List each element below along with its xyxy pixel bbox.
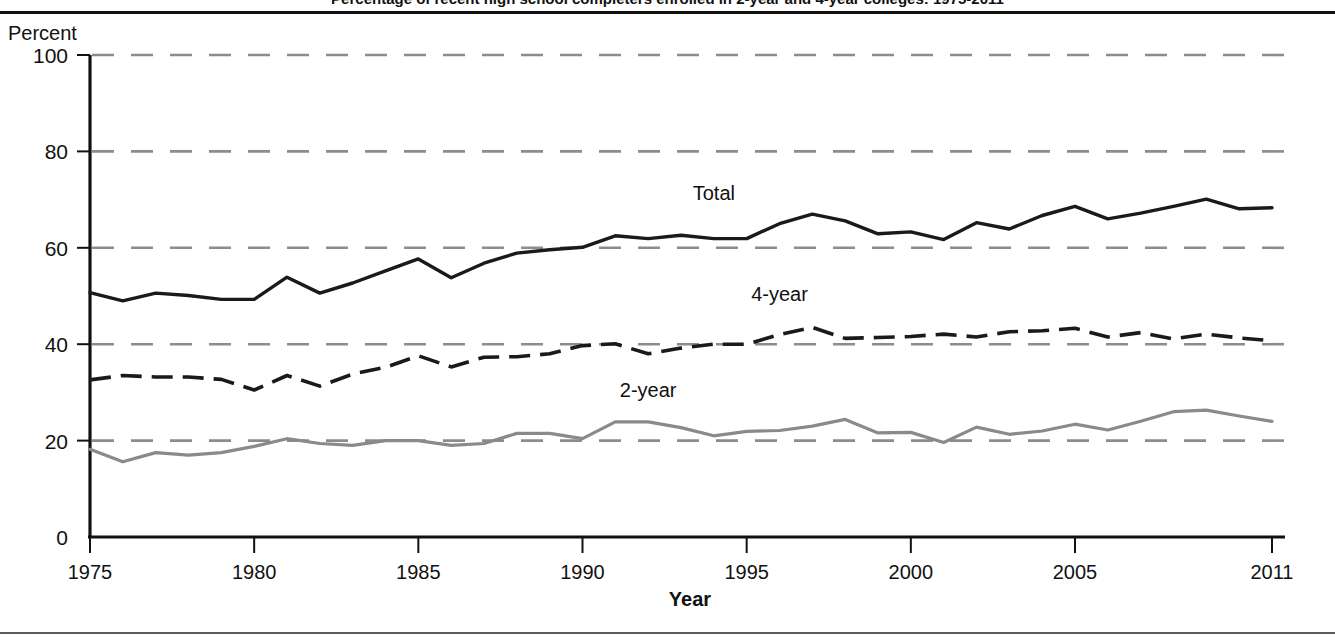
series-label-total: Total bbox=[693, 182, 735, 204]
series-line-total bbox=[90, 199, 1272, 301]
line-chart: 020406080100 197519801985199019952000200… bbox=[0, 14, 1335, 614]
y-tick-label-100: 100 bbox=[33, 44, 68, 67]
y-tick-label-20: 20 bbox=[45, 430, 68, 453]
x-tick-label-2011: 2011 bbox=[1250, 561, 1293, 583]
x-ticks-group: 19751980198519901995200020052011 bbox=[68, 537, 1294, 583]
figure-title-bar: Percentage of recent high school complet… bbox=[0, 0, 1335, 14]
series-line-2-year bbox=[90, 410, 1272, 462]
x-tick-label-1975: 1975 bbox=[68, 561, 113, 583]
x-tick-label-2000: 2000 bbox=[889, 561, 934, 583]
figure-title: Percentage of recent high school complet… bbox=[0, 0, 1335, 7]
series-label-4-year: 4-year bbox=[751, 283, 808, 305]
series-label-2-year: 2-year bbox=[620, 379, 677, 401]
gridlines-group bbox=[92, 55, 1285, 441]
y-tick-label-80: 80 bbox=[45, 140, 68, 163]
x-tick-label-1980: 1980 bbox=[232, 561, 277, 583]
y-tick-label-40: 40 bbox=[45, 333, 68, 356]
x-tick-label-1995: 1995 bbox=[724, 561, 769, 583]
y-tick-label-60: 60 bbox=[45, 237, 68, 260]
series-line-4-year bbox=[90, 327, 1272, 390]
x-tick-label-2005: 2005 bbox=[1053, 561, 1098, 583]
x-tick-label-1990: 1990 bbox=[560, 561, 605, 583]
series-group bbox=[90, 199, 1272, 462]
x-axis-title: Year bbox=[669, 588, 711, 610]
axes-group bbox=[88, 55, 1285, 537]
series-labels-group: Total4-year2-year bbox=[620, 182, 808, 402]
y-tick-label-0: 0 bbox=[56, 526, 68, 549]
y-axis-unit-label: Percent bbox=[8, 22, 77, 44]
chart-plot-area: 020406080100 197519801985199019952000200… bbox=[0, 14, 1335, 614]
figure-bottom-divider bbox=[0, 632, 1335, 634]
y-ticks-group: 020406080100 bbox=[33, 44, 90, 549]
x-tick-label-1985: 1985 bbox=[396, 561, 441, 583]
